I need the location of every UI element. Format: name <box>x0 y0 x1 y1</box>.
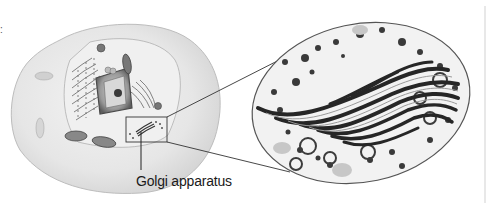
corner-mark: : <box>0 24 3 35</box>
cell-diagram-figure: : Golgi apparatus <box>0 0 491 203</box>
animal-cell <box>11 24 220 193</box>
mitochondrion <box>65 131 87 141</box>
golgi-micrograph <box>237 3 485 203</box>
page-edge-divider <box>484 6 486 203</box>
golgi-apparatus-label: Golgi apparatus <box>136 173 232 189</box>
nucleolus <box>114 89 122 97</box>
diagram-canvas <box>0 0 491 203</box>
